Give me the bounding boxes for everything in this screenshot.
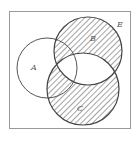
label-c: C	[77, 104, 83, 113]
label-b: B	[89, 34, 96, 43]
venn-diagram: A B C E	[0, 0, 138, 145]
label-a: A	[30, 63, 37, 72]
label-universe-e: E	[116, 20, 123, 29]
